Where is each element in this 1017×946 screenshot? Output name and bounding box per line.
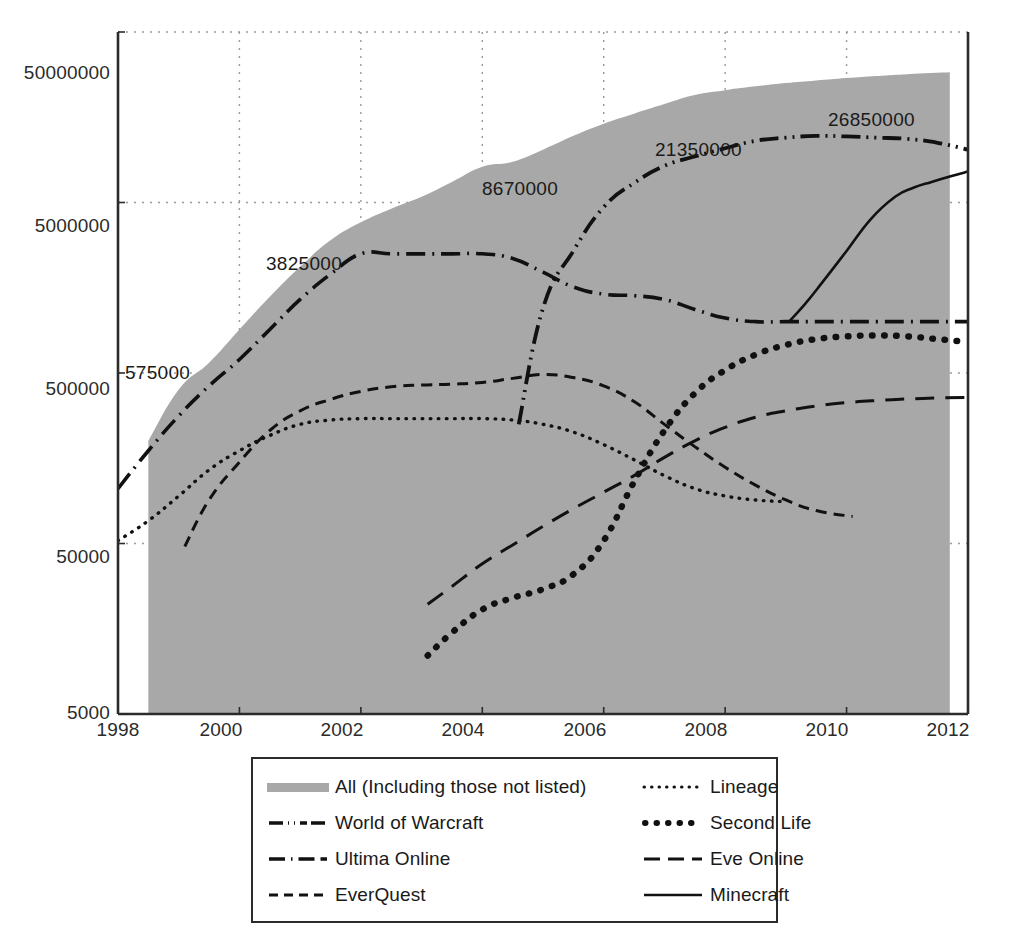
legend-swatch-solid-icon — [642, 886, 704, 904]
legend-swatch-dash-dot-dot-icon — [267, 814, 329, 832]
chart-legend: All (Including those not listed) Lineage… — [251, 757, 778, 923]
annotation-8670000: 8670000 — [482, 178, 558, 200]
legend-item-lineage[interactable]: Lineage — [642, 776, 867, 798]
y-tick-label-50000000: 50000000 — [8, 62, 110, 84]
legend-label-all: All (Including those not listed) — [335, 776, 586, 798]
x-tick-label-2008: 2008 — [666, 719, 746, 741]
legend-label-minecraft: Minecraft — [710, 884, 789, 906]
legend-label-lineage: Lineage — [710, 776, 778, 798]
legend-item-everquest[interactable]: EverQuest — [267, 884, 652, 906]
x-tick-label-1998: 1998 — [78, 719, 158, 741]
x-tick-label-2002: 2002 — [302, 719, 382, 741]
legend-grid: All (Including those not listed) Lineage… — [267, 769, 767, 915]
legend-item-second-life[interactable]: Second Life — [642, 812, 867, 834]
x-tick-label-2000: 2000 — [181, 719, 261, 741]
x-tick-label-2004: 2004 — [423, 719, 503, 741]
chart-page: 50000000 5000000 500000 50000 5000 1998 … — [0, 0, 1017, 946]
legend-swatch-area-icon — [267, 778, 329, 796]
y-tick-label-500000: 500000 — [8, 378, 110, 400]
legend-label-everquest: EverQuest — [335, 884, 426, 906]
annotation-575000: 575000 — [125, 362, 190, 384]
legend-item-all[interactable]: All (Including those not listed) — [267, 776, 652, 798]
legend-item-world-of-warcraft[interactable]: World of Warcraft — [267, 812, 652, 834]
x-tick-label-2006: 2006 — [545, 719, 625, 741]
mmog-subscriptions-chart: 50000000 5000000 500000 50000 5000 1998 … — [0, 0, 1017, 946]
y-tick-label-50000: 50000 — [8, 546, 110, 568]
legend-swatch-dotted-icon — [642, 778, 704, 796]
legend-label-eve-online: Eve Online — [710, 848, 804, 870]
annotation-3825000: 3825000 — [266, 253, 342, 275]
annotation-21350000: 21350000 — [655, 139, 742, 161]
x-tick-label-2010: 2010 — [787, 719, 867, 741]
annotation-26850000: 26850000 — [828, 109, 915, 131]
legend-item-ultima-online[interactable]: Ultima Online — [267, 848, 652, 870]
area-series-all — [148, 72, 949, 714]
x-tick-label-2012: 2012 — [908, 719, 988, 741]
legend-label-second-life: Second Life — [710, 812, 811, 834]
legend-swatch-dashed-icon — [267, 886, 329, 904]
legend-swatch-thick-dotted-icon — [642, 814, 704, 832]
y-tick-label-5000000: 5000000 — [8, 215, 110, 237]
legend-item-eve-online[interactable]: Eve Online — [642, 848, 867, 870]
legend-swatch-dash-dot-icon — [267, 850, 329, 868]
legend-label-world-of-warcraft: World of Warcraft — [335, 812, 483, 834]
legend-swatch-long-dashed-icon — [642, 850, 704, 868]
legend-label-ultima-online: Ultima Online — [335, 848, 450, 870]
legend-item-minecraft[interactable]: Minecraft — [642, 884, 867, 906]
